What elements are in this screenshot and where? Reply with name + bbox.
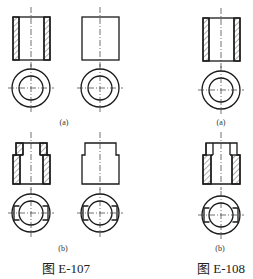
e108-label-b: (b) [215, 244, 224, 253]
e108-a-front-view [203, 18, 240, 61]
e108-label-a: (a) [217, 118, 226, 127]
e107-b-left-front-view [13, 143, 50, 184]
e107-caption: 图 E-107 [42, 258, 90, 277]
e107-a-left-front-view [13, 17, 50, 60]
e108-b-front-view [203, 143, 240, 184]
engineering-drawings [0, 0, 253, 279]
e107-label-b: (b) [58, 244, 67, 253]
e107-label-a: (a) [60, 118, 69, 127]
e108-caption: 图 E-108 [197, 258, 245, 277]
e107-b-right-front-view [82, 143, 119, 184]
e107-a-right-front-view [82, 17, 119, 60]
